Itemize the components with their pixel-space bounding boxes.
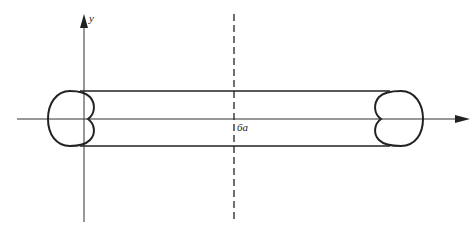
y-axis-label: y	[88, 12, 94, 24]
x-axis-arrow-icon	[455, 115, 470, 123]
diagram-canvas: y 6a	[0, 0, 474, 237]
distance-label: 6a	[237, 121, 249, 133]
y-axis-arrow-icon	[80, 14, 88, 28]
